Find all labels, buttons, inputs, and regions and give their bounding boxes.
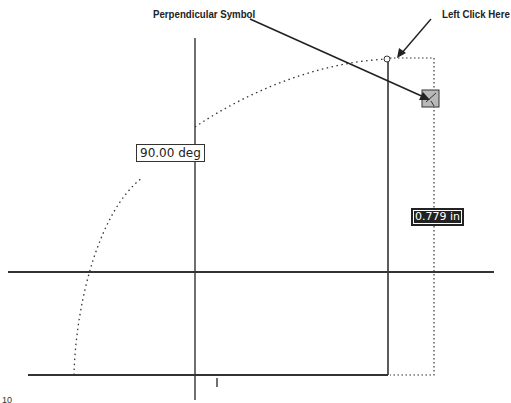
dotted-arc <box>74 59 388 375</box>
leader-arrow-perpendicular <box>250 19 430 100</box>
leader-arrow-click <box>397 19 431 58</box>
sketch-canvas[interactable] <box>0 0 511 403</box>
angle-dimension-input[interactable]: 90.00 deg <box>136 144 205 162</box>
callout-left-click-here: Left Click Here <box>442 8 510 20</box>
length-dimension-input[interactable]: 0.779 in <box>411 208 464 226</box>
page-number-fragment: 10 <box>2 396 12 403</box>
endpoint-circle-icon[interactable] <box>384 56 390 62</box>
callout-perpendicular-symbol: Perpendicular Symbol <box>153 8 255 20</box>
